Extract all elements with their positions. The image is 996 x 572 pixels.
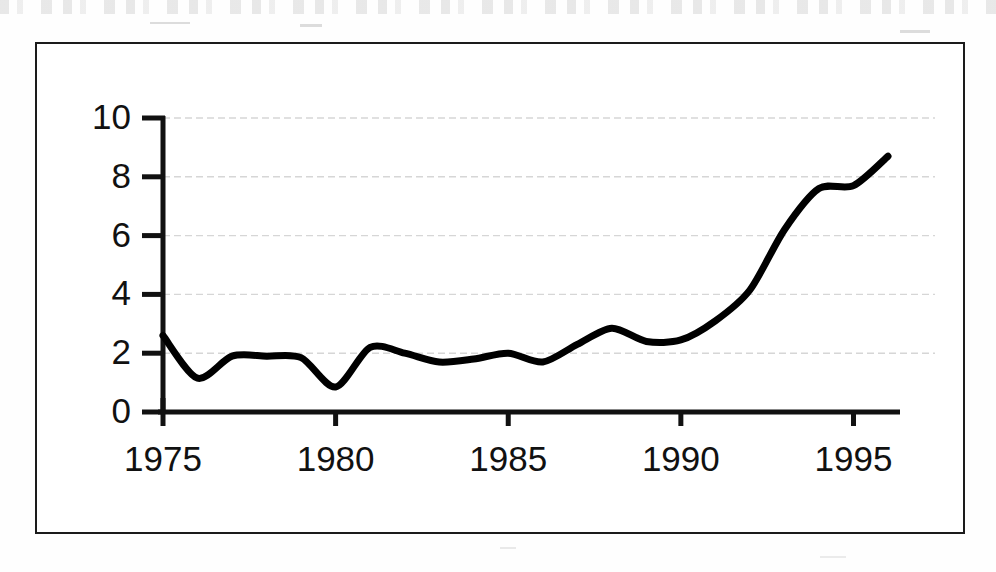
- data-series-line: [163, 156, 888, 387]
- y-axis-tick-label: 6: [61, 217, 131, 252]
- x-axis-tick-label: 1990: [621, 441, 741, 476]
- y-axis-tick-label: 10: [61, 99, 131, 134]
- axis-lines: [158, 116, 900, 414]
- y-axis-tick-label: 8: [61, 158, 131, 193]
- x-axis-tick-label: 1975: [103, 441, 223, 476]
- x-axis-tick-label: 1985: [448, 441, 568, 476]
- y-axis-tick-label: 0: [61, 393, 131, 428]
- x-axis-tick-label: 1980: [276, 441, 396, 476]
- line-chart: 0246810 19751980198519901995: [0, 0, 996, 572]
- chart-canvas: [0, 0, 996, 572]
- y-axis-tick-label: 4: [61, 275, 131, 310]
- x-axis-tick-label: 1995: [793, 441, 913, 476]
- gridlines: [163, 118, 935, 353]
- y-axis-tick-label: 2: [61, 334, 131, 369]
